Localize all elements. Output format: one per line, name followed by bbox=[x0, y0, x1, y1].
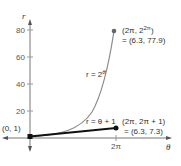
y-axis-arrow-down-icon bbox=[28, 146, 32, 152]
annotation-linear-line1: (2π, 2π + 1) bbox=[122, 117, 166, 126]
annotation-origin: (0, 1) bbox=[2, 124, 21, 133]
x-axis-arrow-left-icon bbox=[2, 136, 8, 140]
y-tick-label-60: 60 bbox=[16, 53, 25, 62]
series-linear-line bbox=[30, 128, 116, 137]
x-axis-arrow-right-icon bbox=[166, 136, 172, 140]
y-tick-label-80: 80 bbox=[16, 26, 25, 35]
annotation-linear-line2: = (6.3, 7.3) bbox=[124, 127, 163, 136]
origin-point-marker bbox=[28, 134, 33, 139]
y-tick-label-40: 40 bbox=[16, 80, 25, 89]
y-tick-label-20: 20 bbox=[16, 107, 25, 116]
y-axis-arrow-up-icon bbox=[28, 19, 32, 25]
chart: 20 40 60 80 2π r θ r = 2θ r = θ + 1 (0, … bbox=[0, 0, 181, 166]
series-label-exponential: r = 2θ bbox=[86, 69, 106, 79]
y-axis-label: r bbox=[22, 11, 26, 21]
linear-endpoint-marker bbox=[114, 126, 119, 131]
exponential-endpoint-marker bbox=[112, 29, 117, 34]
series-label-linear: r = θ + 1 bbox=[86, 117, 116, 126]
x-axis-label: θ bbox=[166, 142, 171, 152]
annotation-exponential-line2: = (6.3, 77.9) bbox=[122, 36, 166, 45]
annotation-exponential-line1: (2π, 22π) bbox=[122, 25, 154, 35]
x-tick-label-2pi: 2π bbox=[111, 142, 121, 151]
